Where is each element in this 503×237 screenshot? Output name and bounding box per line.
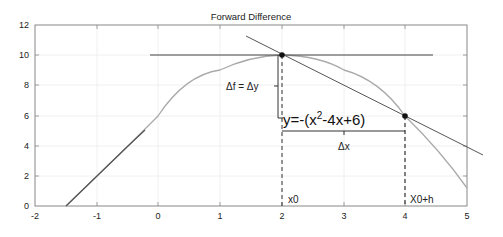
svg-text:0: 0: [155, 211, 160, 221]
svg-text:4: 4: [402, 211, 407, 221]
svg-text:2: 2: [24, 171, 29, 181]
svg-text:10: 10: [19, 50, 29, 60]
grid: [35, 25, 467, 206]
curve-line: [66, 55, 467, 206]
x0h-label: X0+h: [410, 194, 434, 205]
svg-text:8: 8: [24, 80, 29, 90]
x-tick-labels: -2 -1 0 1 2 3 4 5: [31, 211, 470, 221]
point-x0h: [402, 113, 408, 119]
svg-text:5: 5: [464, 211, 469, 221]
svg-text:0: 0: [24, 201, 29, 211]
y-tick-labels: 0 2 4 6 8 10 12: [19, 20, 29, 211]
chart-title: Forward Difference: [211, 11, 292, 22]
delta-f-label: Δf = Δy: [226, 81, 259, 92]
x0-label: x0: [288, 194, 299, 205]
axis-ticks: [35, 25, 467, 206]
svg-text:6: 6: [24, 111, 29, 121]
curve-dark-segment: [66, 130, 145, 206]
point-x0: [279, 52, 285, 58]
svg-text:12: 12: [19, 20, 29, 30]
svg-text:-2: -2: [31, 211, 39, 221]
delta-x-label: Δx: [338, 141, 350, 152]
axes-box: [35, 25, 467, 206]
equation-label: y=-(x2-4x+6): [283, 110, 365, 128]
svg-text:4: 4: [24, 141, 29, 151]
svg-text:1: 1: [217, 211, 222, 221]
svg-text:3: 3: [341, 211, 346, 221]
svg-text:2: 2: [279, 211, 284, 221]
svg-text:-1: -1: [93, 211, 101, 221]
forward-difference-chart: Forward Difference -2 -1 0 1 2 3 4 5 0 2…: [0, 0, 503, 237]
